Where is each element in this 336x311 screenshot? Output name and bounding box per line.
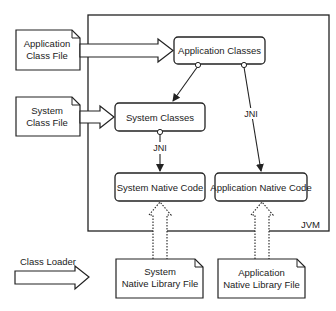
application-class-file-line2: Class File [26,50,68,61]
jni-system-label: JNI [153,143,167,153]
application-native-library-file-line1: Application [238,267,284,278]
jvm-label: JVM [301,219,320,230]
system-native-library-file: System Native Library File [116,259,203,298]
edge-jni-application: JNI [241,62,261,171]
system-class-file-line2: Class File [26,117,68,128]
load-arrow-application-classes [80,39,173,62]
legend-class-loader-label: Class Loader [20,256,76,267]
system-native-code-label: System Native Code [117,182,204,193]
system-classes-label: System Classes [126,112,194,123]
jni-application-label: JNI [244,109,258,119]
application-class-file: Application Class File [16,30,80,70]
system-class-file: System Class File [16,97,80,136]
load-arrow-system-classes [80,106,114,128]
system-native-code-node: System Native Code [115,173,205,201]
jvm-diagram: JVM Application Class File System Class … [0,0,336,311]
system-native-library-file-line2: Native Library File [122,278,199,289]
application-native-library-file: Application Native Library File [218,259,305,298]
system-native-library-file-line1: System [144,266,176,277]
application-classes-label: Application Classes [178,45,261,56]
application-native-code-node: Application Native Code [210,173,311,201]
system-classes-node: System Classes [115,103,205,131]
class-loader-arrow-icon [15,266,89,289]
application-classes-node: Application Classes [174,37,265,64]
application-class-file-line1: Application [24,38,70,49]
edge-app-to-system-classes [173,62,201,101]
legend-class-loader: Class Loader [15,256,89,289]
system-class-file-line1: System [31,105,63,116]
application-native-code-label: Application Native Code [210,182,311,193]
application-native-library-file-line2: Native Library File [223,279,300,290]
edge-jni-system: JNI [153,129,167,171]
